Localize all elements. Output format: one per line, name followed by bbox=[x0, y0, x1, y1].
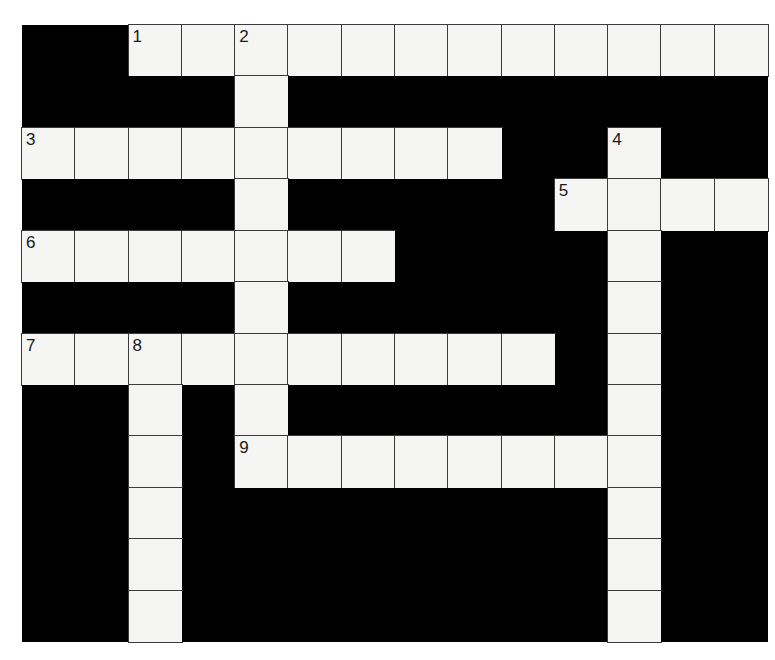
block-cell bbox=[502, 385, 555, 436]
block-cell bbox=[448, 488, 501, 539]
crossword-cell[interactable] bbox=[608, 231, 661, 282]
crossword-cell[interactable] bbox=[182, 128, 235, 179]
block-cell bbox=[395, 591, 448, 642]
crossword-cell[interactable] bbox=[288, 231, 341, 282]
crossword-cell[interactable] bbox=[555, 436, 608, 487]
crossword-cell[interactable] bbox=[235, 385, 288, 436]
crossword-cell[interactable] bbox=[129, 128, 182, 179]
crossword-cell[interactable]: 6 bbox=[22, 231, 75, 282]
crossword-cell[interactable] bbox=[342, 231, 395, 282]
block-cell bbox=[715, 385, 768, 436]
crossword-cell[interactable] bbox=[395, 128, 448, 179]
crossword-cell[interactable] bbox=[661, 179, 714, 230]
crossword-cell[interactable] bbox=[608, 334, 661, 385]
crossword-cell[interactable] bbox=[715, 25, 768, 76]
crossword-cell[interactable] bbox=[608, 436, 661, 487]
crossword-cell[interactable] bbox=[608, 539, 661, 590]
crossword-cell[interactable]: 7 bbox=[22, 334, 75, 385]
crossword-cell[interactable] bbox=[235, 231, 288, 282]
crossword-cell[interactable]: 5 bbox=[555, 179, 608, 230]
crossword-cell[interactable] bbox=[288, 128, 341, 179]
crossword-cell[interactable] bbox=[502, 436, 555, 487]
clue-number: 7 bbox=[26, 337, 35, 354]
crossword-cell[interactable] bbox=[448, 128, 501, 179]
crossword-cell[interactable]: 9 bbox=[235, 436, 288, 487]
crossword-cell[interactable] bbox=[342, 334, 395, 385]
crossword-cell[interactable] bbox=[555, 25, 608, 76]
crossword-cell[interactable] bbox=[288, 25, 341, 76]
crossword-cell[interactable] bbox=[608, 488, 661, 539]
crossword-cell[interactable] bbox=[235, 282, 288, 333]
crossword-cell[interactable]: 1 bbox=[129, 25, 182, 76]
crossword-cell[interactable] bbox=[448, 334, 501, 385]
crossword-cell[interactable] bbox=[502, 25, 555, 76]
crossword-cell[interactable] bbox=[395, 436, 448, 487]
block-cell bbox=[288, 539, 341, 590]
block-cell bbox=[502, 282, 555, 333]
crossword-cell[interactable] bbox=[608, 385, 661, 436]
crossword-cell[interactable] bbox=[182, 25, 235, 76]
block-cell bbox=[22, 385, 75, 436]
block-cell bbox=[182, 488, 235, 539]
block-cell bbox=[502, 231, 555, 282]
crossword-cell[interactable] bbox=[235, 76, 288, 127]
crossword-cell[interactable] bbox=[129, 539, 182, 590]
crossword-cell[interactable] bbox=[235, 334, 288, 385]
crossword-cell[interactable]: 3 bbox=[22, 128, 75, 179]
block-cell bbox=[22, 436, 75, 487]
crossword-cell[interactable] bbox=[395, 334, 448, 385]
crossword-cell[interactable] bbox=[75, 334, 128, 385]
crossword-cell[interactable] bbox=[608, 282, 661, 333]
crossword-cell[interactable] bbox=[342, 128, 395, 179]
block-cell bbox=[661, 231, 714, 282]
crossword-cell[interactable] bbox=[608, 25, 661, 76]
crossword-cell[interactable] bbox=[235, 128, 288, 179]
crossword-cell[interactable] bbox=[129, 231, 182, 282]
crossword-cell[interactable] bbox=[715, 179, 768, 230]
crossword-cell[interactable] bbox=[129, 385, 182, 436]
crossword-cell[interactable] bbox=[395, 25, 448, 76]
crossword-cell[interactable]: 8 bbox=[129, 334, 182, 385]
crossword-cell[interactable] bbox=[235, 179, 288, 230]
block-cell bbox=[22, 25, 75, 76]
crossword-cell[interactable] bbox=[608, 591, 661, 642]
clue-number: 3 bbox=[26, 131, 35, 148]
block-cell bbox=[22, 488, 75, 539]
block-cell bbox=[448, 282, 501, 333]
block-cell bbox=[395, 488, 448, 539]
crossword-cell[interactable] bbox=[661, 25, 714, 76]
block-cell bbox=[715, 76, 768, 127]
crossword-cell[interactable] bbox=[129, 488, 182, 539]
block-cell bbox=[502, 76, 555, 127]
clue-number: 8 bbox=[133, 337, 142, 354]
block-cell bbox=[182, 282, 235, 333]
crossword-cell[interactable] bbox=[182, 231, 235, 282]
crossword-cell[interactable] bbox=[342, 25, 395, 76]
block-cell bbox=[555, 591, 608, 642]
crossword-cell[interactable]: 2 bbox=[235, 25, 288, 76]
crossword-cell[interactable]: 4 bbox=[608, 128, 661, 179]
crossword-cell[interactable] bbox=[129, 591, 182, 642]
crossword-cell[interactable] bbox=[182, 334, 235, 385]
crossword-cell[interactable] bbox=[75, 128, 128, 179]
crossword-cell[interactable] bbox=[608, 179, 661, 230]
crossword-cell[interactable] bbox=[288, 436, 341, 487]
crossword-cell[interactable] bbox=[448, 25, 501, 76]
crossword-cell[interactable] bbox=[75, 231, 128, 282]
block-cell bbox=[75, 179, 128, 230]
block-cell bbox=[395, 385, 448, 436]
block-cell bbox=[395, 539, 448, 590]
block-cell bbox=[502, 539, 555, 590]
crossword-cell[interactable] bbox=[448, 436, 501, 487]
block-cell bbox=[502, 591, 555, 642]
block-cell bbox=[555, 385, 608, 436]
crossword-cell[interactable] bbox=[288, 334, 341, 385]
block-cell bbox=[235, 591, 288, 642]
crossword-cell[interactable] bbox=[342, 436, 395, 487]
block-cell bbox=[608, 76, 661, 127]
block-cell bbox=[555, 282, 608, 333]
block-cell bbox=[715, 539, 768, 590]
crossword-cell[interactable] bbox=[129, 436, 182, 487]
block-cell bbox=[555, 334, 608, 385]
crossword-cell[interactable] bbox=[502, 334, 555, 385]
